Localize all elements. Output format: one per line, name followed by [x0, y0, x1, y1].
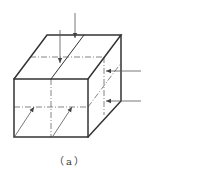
cube-edges [14, 35, 121, 137]
right-face-edges [88, 35, 121, 137]
figure-caption: （a） [0, 153, 140, 168]
front-arrow-2 [53, 107, 72, 136]
center-lines [14, 57, 121, 137]
front-arrow-1 [15, 107, 34, 136]
right-diagonal-centerline [88, 63, 121, 107]
load-arrows [15, 13, 141, 136]
